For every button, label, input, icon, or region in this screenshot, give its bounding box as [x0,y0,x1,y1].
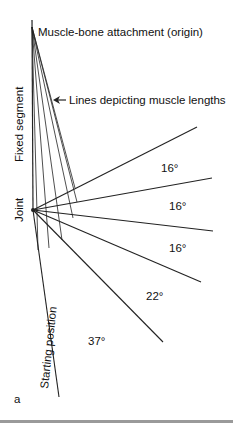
angle-label-4: 22° [146,290,163,302]
joint-label: Joint [13,197,25,222]
fixed-segment-label: Fixed segment [13,86,25,162]
angle-label-1: 16° [161,162,178,174]
joint-dot [31,208,35,212]
muscle-lines-label: Lines depicting muscle lengths [69,94,226,106]
starting-position-label: Starting position [38,306,59,389]
angle-label-2: 16° [169,200,186,212]
arrow-icon [53,96,66,104]
panel-label: a [14,393,21,405]
origin-label: Muscle-bone attachment (origin) [38,26,203,38]
muscle-length-diagram: Muscle-bone attachment (origin) Lines de… [0,0,233,423]
angle-label-3: 16° [169,242,186,254]
angle-label-5: 37° [88,335,105,347]
moving-segments [33,127,213,397]
